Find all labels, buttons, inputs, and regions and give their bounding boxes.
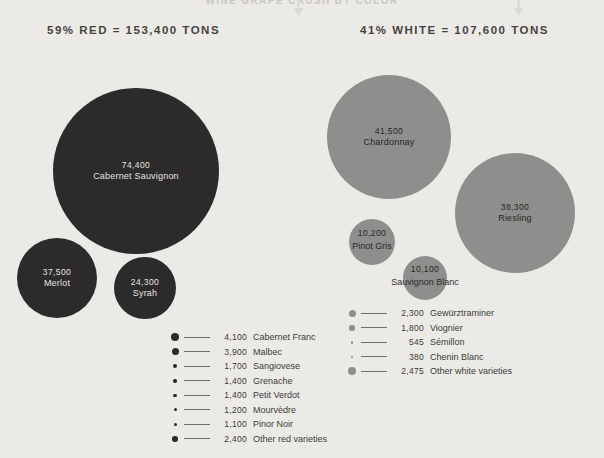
- legend-value: 2,400: [215, 434, 247, 444]
- legend-leader-line: [184, 409, 210, 410]
- legend-label: Malbec: [253, 347, 282, 357]
- legend-dot-icon: [345, 310, 359, 317]
- legend-dot-icon: [168, 364, 182, 368]
- legend-value: 1,800: [392, 323, 424, 333]
- legend-dot-icon: [168, 348, 182, 355]
- down-arrow-icon-red: [292, 0, 305, 16]
- legend-item-malbec: 3,900 Malbec: [168, 345, 327, 360]
- section-header-red: 59% RED = 153,400 TONS: [47, 24, 220, 36]
- legend-dot-icon: [345, 341, 359, 344]
- legend-dot-icon: [168, 394, 182, 398]
- legend-red: 4,100 Cabernet Franc 3,900 Malbec 1,700 …: [168, 330, 327, 446]
- legend-item-sangiovese: 1,700 Sangiovese: [168, 359, 327, 374]
- bubble-value: 10,200: [358, 228, 386, 239]
- legend-label: Mourvèdre: [253, 405, 296, 415]
- bubble-value: 41,500: [375, 126, 403, 137]
- legend-leader-line: [184, 380, 210, 381]
- section-header-white: 41% WHITE = 107,600 TONS: [360, 24, 549, 36]
- legend-value: 3,900: [215, 347, 247, 357]
- legend-leader-line: [361, 327, 387, 328]
- legend-white: 2,300 Gewürztraminer 1,800 Viognier 545 …: [345, 306, 512, 379]
- legend-label: Other red varieties: [253, 434, 327, 444]
- legend-leader-line: [361, 342, 387, 343]
- bubble-cabernet-sauvignon: 74,400 Cabernet Sauvignon: [53, 88, 219, 254]
- legend-dot-icon: [345, 367, 359, 375]
- legend-item-grenache: 1,400 Grenache: [168, 374, 327, 389]
- down-arrow-icon-white: [512, 0, 525, 16]
- legend-item-other-white-varieties: 2,475 Other white varieties: [345, 364, 512, 379]
- legend-value: 2,475: [392, 366, 424, 376]
- legend-label: Pinor Noir: [253, 419, 293, 429]
- legend-leader-line: [184, 438, 210, 439]
- legend-item-viognier: 1,800 Viognier: [345, 321, 512, 336]
- legend-value: 2,300: [392, 308, 424, 318]
- legend-value: 1,400: [215, 390, 247, 400]
- legend-leader-line: [184, 395, 210, 396]
- legend-dot-icon: [345, 356, 359, 358]
- bubble-label: Merlot: [44, 278, 70, 289]
- bubble-merlot: 37,500 Merlot: [17, 238, 97, 318]
- legend-value: 1,700: [215, 361, 247, 371]
- legend-dot-icon: [168, 379, 182, 383]
- bubble-label-pinot-gris: Pinot Gris: [332, 241, 412, 251]
- bubble-chardonnay: 41,500 Chardonnay: [327, 75, 451, 199]
- bubble-riesling: 38,300 Riesling: [455, 153, 575, 273]
- bubble-label: Chardonnay: [363, 137, 414, 148]
- legend-item-chenin-blanc: 380 Chenin Blanc: [345, 350, 512, 365]
- legend-value: 545: [392, 337, 424, 347]
- bubble-value: 24,300: [131, 277, 159, 288]
- legend-dot-icon: [168, 423, 182, 426]
- legend-item-mourvedre: 1,200 Mourvèdre: [168, 403, 327, 418]
- legend-item-petit-verdot: 1,400 Petit Verdot: [168, 388, 327, 403]
- legend-leader-line: [361, 371, 387, 372]
- infographic-canvas: WINE GRAPE CRUSH BY COLOR 59% RED = 153,…: [0, 0, 604, 458]
- legend-dot-icon: [168, 436, 182, 442]
- legend-value: 1,200: [215, 405, 247, 415]
- legend-item-gewurztraminer: 2,300 Gewürztraminer: [345, 306, 512, 321]
- legend-label: Gewürztraminer: [430, 308, 494, 318]
- legend-item-other-red-varieties: 2,400 Other red varieties: [168, 432, 327, 447]
- bubble-label: Cabernet Sauvignon: [93, 171, 179, 182]
- legend-value: 1,100: [215, 419, 247, 429]
- bubble-value: 38,300: [501, 202, 529, 213]
- bubble-value: 37,500: [43, 267, 71, 278]
- legend-label: Petit Verdot: [253, 390, 300, 400]
- legend-value: 380: [392, 352, 424, 362]
- legend-item-cabernet-franc: 4,100 Cabernet Franc: [168, 330, 327, 345]
- legend-dot-icon: [168, 333, 182, 341]
- legend-value: 1,400: [215, 376, 247, 386]
- bubble-value: 10,100: [411, 264, 439, 275]
- legend-label: Sémillon: [430, 337, 465, 347]
- legend-item-semillon: 545 Sémillon: [345, 335, 512, 350]
- legend-dot-icon: [168, 408, 182, 411]
- legend-leader-line: [184, 351, 210, 352]
- legend-dot-icon: [345, 325, 359, 331]
- legend-leader-line: [361, 313, 387, 314]
- legend-leader-line: [361, 356, 387, 357]
- bubble-label: Syrah: [133, 288, 158, 299]
- legend-label: Viognier: [430, 323, 463, 333]
- legend-leader-line: [184, 366, 210, 367]
- legend-label: Chenin Blanc: [430, 352, 484, 362]
- bubble-label-sauvignon-blanc: Sauvignon Blanc: [373, 277, 477, 287]
- bubble-value: 74,400: [122, 160, 150, 171]
- legend-leader-line: [184, 424, 210, 425]
- legend-label: Sangiovese: [253, 361, 300, 371]
- legend-label: Grenache: [253, 376, 293, 386]
- legend-leader-line: [184, 337, 210, 338]
- legend-item-pinor-noir: 1,100 Pinor Noir: [168, 417, 327, 432]
- legend-label: Other white varieties: [430, 366, 512, 376]
- bubble-syrah: 24,300 Syrah: [114, 257, 176, 319]
- bubble-label: Riesling: [498, 213, 532, 224]
- legend-value: 4,100: [215, 332, 247, 342]
- legend-label: Cabernet Franc: [253, 332, 316, 342]
